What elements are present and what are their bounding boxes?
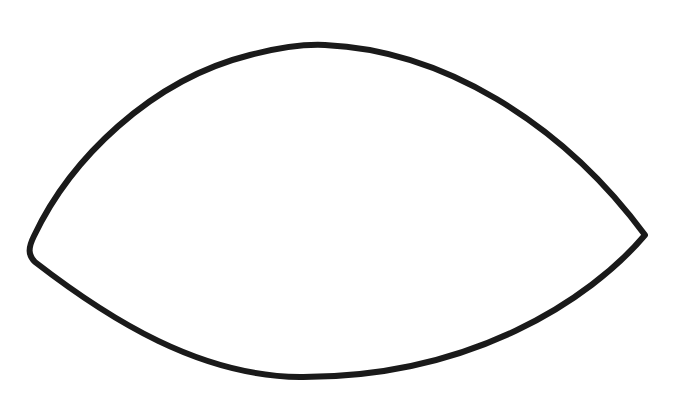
drawing-canvas <box>0 0 675 404</box>
